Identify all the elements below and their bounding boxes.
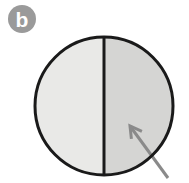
- figure-container: b: [0, 0, 189, 183]
- panel-label-badge: b: [8, 5, 36, 33]
- figure-canvas: b: [0, 0, 189, 183]
- panel-label-text: b: [16, 8, 29, 31]
